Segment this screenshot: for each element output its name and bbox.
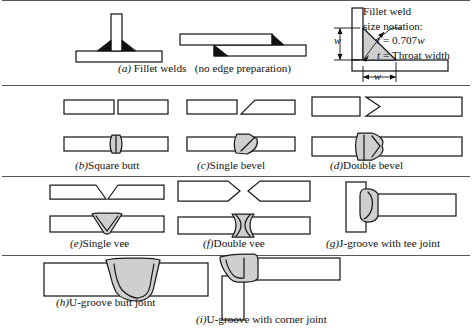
notation-equation-var: t — [377, 34, 380, 46]
caption-h: (h)U-groove butt joint — [56, 297, 155, 309]
caption-f: (f)Double vee — [203, 238, 265, 250]
notation-throat: t = Throat width — [377, 48, 450, 63]
j-groove-tee-joint — [330, 180, 462, 236]
caption-h-text: U-groove butt joint — [69, 296, 155, 308]
fillet-weld-tee-joint — [70, 12, 190, 67]
notation-throat-rest: = Throat width — [383, 49, 450, 61]
square-butt-welded-joint — [62, 131, 172, 157]
dim-label-horizontal-w: w — [374, 70, 381, 84]
caption-c: (c)Single bevel — [197, 160, 265, 172]
caption-c-text: Single bevel — [209, 159, 265, 171]
notation-equation-w: w — [417, 34, 424, 46]
caption-e-letter: (e) — [70, 237, 82, 249]
double-bevel-edge-preparation — [310, 94, 468, 120]
caption-i-text: U-groove with corner joint — [207, 313, 327, 325]
notation-equation-rest: = 0.707 — [383, 34, 417, 46]
single-vee-edge-preparation — [48, 181, 173, 203]
caption-f-text: Double vee — [214, 237, 265, 249]
single-vee-welded-joint — [48, 210, 173, 238]
notation-line2: size notation: — [363, 19, 450, 34]
double-vee-edge-preparation — [176, 178, 316, 204]
caption-b-text: Square butt — [88, 159, 139, 171]
divider-top — [2, 0, 470, 1]
divider-row1 — [2, 85, 470, 86]
single-bevel-edge-preparation — [185, 96, 300, 118]
welding-joints-figure: (a) Fillet welds (no edge preparation) — [0, 0, 472, 330]
divider-row2 — [2, 176, 470, 177]
notation-text-block: Fillet weld size notation: t = 0.707w t … — [363, 4, 450, 62]
caption-d-letter: (d) — [330, 159, 343, 171]
caption-e: (e)Single vee — [70, 238, 129, 250]
square-butt-edge-preparation — [62, 96, 172, 118]
single-bevel-welded-joint — [185, 131, 300, 159]
u-groove-corner-joint — [196, 252, 346, 322]
caption-c-letter: (c) — [197, 159, 209, 171]
double-bevel-welded-joint — [310, 130, 468, 162]
notation-equation: t = 0.707w — [377, 33, 450, 48]
double-vee-welded-joint — [176, 210, 316, 240]
caption-b: (b)Square butt — [75, 160, 139, 172]
caption-i-letter: (i) — [196, 313, 207, 325]
caption-d: (d)Double bevel — [330, 160, 403, 172]
caption-e-text: Single vee — [82, 237, 129, 249]
caption-a-text2: (no edge preparation) — [195, 62, 291, 74]
notation-line1: Fillet weld — [363, 4, 450, 19]
notation-throat-var: t — [377, 49, 380, 61]
caption-g-letter: (g) — [326, 237, 339, 249]
caption-a-letter: (a) — [118, 62, 131, 74]
caption-i: (i)U-groove with corner joint — [196, 314, 327, 326]
caption-f-letter: (f) — [203, 237, 214, 249]
caption-g: (g)J-groove with tee joint — [326, 238, 440, 250]
caption-g-text: J-groove with tee joint — [339, 237, 440, 249]
dim-label-vertical-w: w — [334, 34, 341, 48]
caption-d-text: Double bevel — [343, 159, 403, 171]
caption-a: (a) Fillet welds (no edge preparation) — [118, 63, 291, 75]
caption-b-letter: (b) — [75, 159, 88, 171]
caption-a-text: Fillet welds — [134, 62, 187, 74]
caption-h-letter: (h) — [56, 296, 69, 308]
